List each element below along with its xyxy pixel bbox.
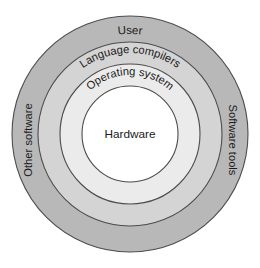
label-user: User: [117, 24, 143, 37]
label-hardware: Hardware: [104, 127, 156, 141]
diagram-canvas: User Language compilers Operating system…: [0, 0, 260, 268]
label-other-software: Other software: [22, 103, 34, 176]
concentric-layers-diagram: User Language compilers Operating system…: [0, 0, 260, 268]
label-software-tools: Software tools: [227, 105, 239, 176]
